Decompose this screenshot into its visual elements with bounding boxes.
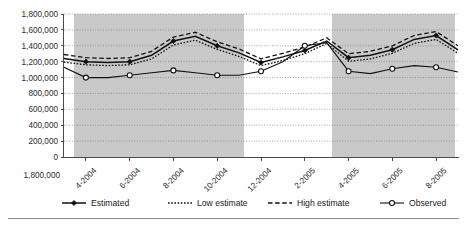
data-point-marker xyxy=(171,68,176,73)
legend-marker-estimated xyxy=(71,200,76,205)
chart-svg: 1,800,0001,600,0001,400,0001,200,0001,00… xyxy=(0,0,467,228)
x-axis-tick-label: 8-2004 xyxy=(161,166,186,191)
x-axis-tick-label: 6-2005 xyxy=(380,166,405,191)
data-point-marker xyxy=(346,69,351,74)
legend-marker-observed xyxy=(390,201,395,206)
y-axis-tick-label: 1,200,000 xyxy=(22,58,59,67)
x-axis-tick-labels: 4-20046-20048-200410-200412-20042-20054-… xyxy=(74,166,449,194)
data-point-marker xyxy=(302,43,307,48)
y-axis-tick-label: 1,800,000 xyxy=(22,10,59,19)
x-axis-tick-label: 10-2004 xyxy=(202,166,230,194)
y-axis-tick-labels: 1,800,0001,600,0001,400,0001,200,0001,00… xyxy=(22,10,59,162)
legend-label-observed: Observed xyxy=(409,198,446,208)
x-axis-tick-label: 12-2004 xyxy=(246,166,274,194)
data-point-marker xyxy=(259,69,264,74)
chart-figure: 1,800,0001,600,0001,400,0001,200,0001,00… xyxy=(0,0,467,228)
y-axis-tick-label: 1,600,000 xyxy=(22,26,59,35)
data-point-marker xyxy=(83,75,88,80)
chart-legend: EstimatedLow estimateHigh estimateObserv… xyxy=(62,198,446,208)
data-point-marker xyxy=(390,66,395,71)
legend-label-low-estimate: Low estimate xyxy=(197,198,248,208)
y-axis-tick-label: 1,000,000 xyxy=(22,74,59,83)
y-axis-tick-label: 400,000 xyxy=(28,121,58,130)
y-axis-tick-label: 600,000 xyxy=(28,105,58,114)
y-axis-tick-label: 800,000 xyxy=(28,89,58,98)
stray-axis-label: 1,800,000 xyxy=(24,171,61,180)
data-point-marker xyxy=(127,73,132,78)
x-axis-tick-label: 4-2005 xyxy=(337,166,362,191)
y-axis-tick-label: 1,400,000 xyxy=(22,42,59,51)
plot-background-bands xyxy=(74,14,455,157)
y-axis-tick-label: 0 xyxy=(53,153,58,162)
data-point-marker xyxy=(215,73,220,78)
x-axis-tick-label: 2-2005 xyxy=(293,166,318,191)
y-axis-tick-label: 200,000 xyxy=(28,137,58,146)
shaded-band-1 xyxy=(74,14,244,157)
legend-label-high-estimate: High estimate xyxy=(297,198,350,208)
x-axis-tick-label: 8-2005 xyxy=(424,166,449,191)
x-axis-tick-label: 6-2004 xyxy=(118,166,143,191)
data-point-marker xyxy=(434,65,439,70)
x-axis-tick-label: 4-2004 xyxy=(74,166,99,191)
legend-label-estimated: Estimated xyxy=(91,198,129,208)
